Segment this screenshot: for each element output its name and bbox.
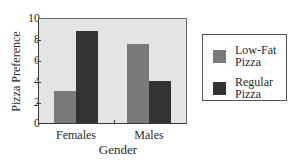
legend: Low-Fat Pizza Regular Pizza xyxy=(202,34,287,101)
legend-label-low-fat: Low-Fat Pizza xyxy=(235,44,285,68)
x-tick-mark-center xyxy=(114,120,115,124)
bar-females-regular xyxy=(76,31,98,123)
y-tick-mark-4 xyxy=(37,82,41,83)
y-tick-mark-8 xyxy=(37,40,41,41)
legend-label-low-fat-line2: Pizza xyxy=(235,56,285,68)
legend-label-regular: Regular Pizza xyxy=(235,76,285,100)
bar-males-low-fat xyxy=(127,44,149,123)
y-axis-title: Pizza Preference xyxy=(9,22,24,122)
x-label-females: Females xyxy=(46,128,106,143)
x-label-males: Males xyxy=(119,128,179,143)
legend-item-low-fat: Low-Fat Pizza xyxy=(213,44,285,68)
legend-swatch-low-fat xyxy=(213,50,226,63)
legend-label-regular-line2: Pizza xyxy=(235,88,285,100)
legend-swatch-regular xyxy=(213,82,226,95)
x-axis-title: Gender xyxy=(88,142,148,158)
plot-area xyxy=(38,18,187,124)
bar-females-low-fat xyxy=(54,91,76,123)
bar-males-regular xyxy=(149,81,171,123)
y-tick-mark-6 xyxy=(37,61,41,62)
y-tick-mark-2 xyxy=(37,103,41,104)
legend-item-regular: Regular Pizza xyxy=(213,76,285,100)
